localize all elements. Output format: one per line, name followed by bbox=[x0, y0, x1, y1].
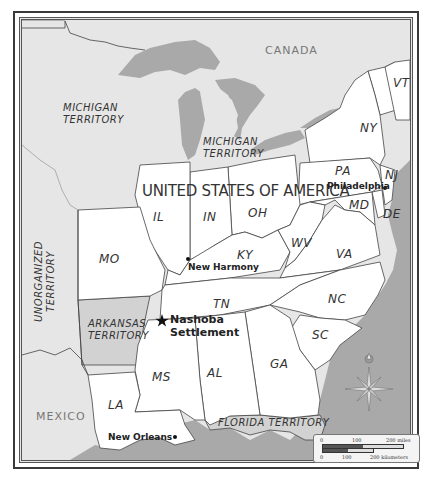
scale-miles-200: 200 miles bbox=[386, 437, 411, 443]
state-label-mo: MO bbox=[99, 252, 120, 266]
state-label-wv: WV bbox=[291, 236, 312, 250]
scale-miles-0: 0 bbox=[320, 437, 323, 443]
state-label-tn: TN bbox=[213, 297, 230, 311]
state-label-il: IL bbox=[153, 210, 164, 224]
state-label-in: IN bbox=[203, 210, 217, 224]
michigan-territory-west-label: MICHIGANTERRITORY bbox=[63, 102, 124, 126]
state-label-oh: OH bbox=[248, 206, 267, 220]
scale-bar: 0 100 200 miles 0 100 200 kilometers bbox=[313, 434, 420, 463]
state-label-md: MD bbox=[349, 198, 370, 212]
scale-km-100: 100 bbox=[342, 454, 352, 460]
scale-km-200: 200 kilometers bbox=[370, 454, 408, 460]
state-label-la: LA bbox=[108, 398, 124, 412]
usa-label: UNITED STATES OF AMERICA bbox=[142, 182, 349, 200]
state-label-ms: MS bbox=[152, 370, 171, 384]
nashoba-settlement-label: NashobaSettlement bbox=[170, 313, 239, 339]
state-label-vt: VT bbox=[393, 76, 410, 90]
scale-km-0: 0 bbox=[320, 454, 323, 460]
state-label-ny: NY bbox=[360, 121, 377, 135]
state-label-de: DE bbox=[383, 207, 401, 221]
florida-territory-label: FLORIDA TERRITORY bbox=[218, 417, 329, 428]
canada-label: CANADA bbox=[265, 44, 318, 57]
mexico-label: MEXICO bbox=[36, 410, 86, 423]
state-label-nc: NC bbox=[328, 292, 346, 306]
state-label-ky: KY bbox=[237, 248, 253, 262]
state-label-pa: PA bbox=[335, 164, 351, 178]
philadelphia-label: Philadelphia bbox=[327, 181, 390, 191]
new-orleans-label: New Orleans bbox=[108, 432, 172, 442]
state-label-ga: GA bbox=[270, 357, 289, 371]
michigan-territory-east-label: MICHIGANTERRITORY bbox=[203, 136, 264, 160]
scale-miles-100: 100 bbox=[352, 437, 362, 443]
unorganized-territory-label: UNORGANIZEDTERRITORY bbox=[33, 241, 57, 322]
new-harmony-marker-icon bbox=[186, 257, 190, 261]
state-label-al: AL bbox=[207, 366, 223, 380]
state-label-va: VA bbox=[336, 247, 353, 261]
new-harmony-label: New Harmony bbox=[188, 262, 259, 272]
new-orleans-marker-icon bbox=[173, 435, 177, 439]
state-label-nj: NJ bbox=[385, 168, 399, 182]
scale-bar-km bbox=[322, 448, 374, 453]
state-label-sc: SC bbox=[312, 328, 329, 342]
arkansas-territory-label: ARKANSASTERRITORY bbox=[88, 318, 149, 342]
